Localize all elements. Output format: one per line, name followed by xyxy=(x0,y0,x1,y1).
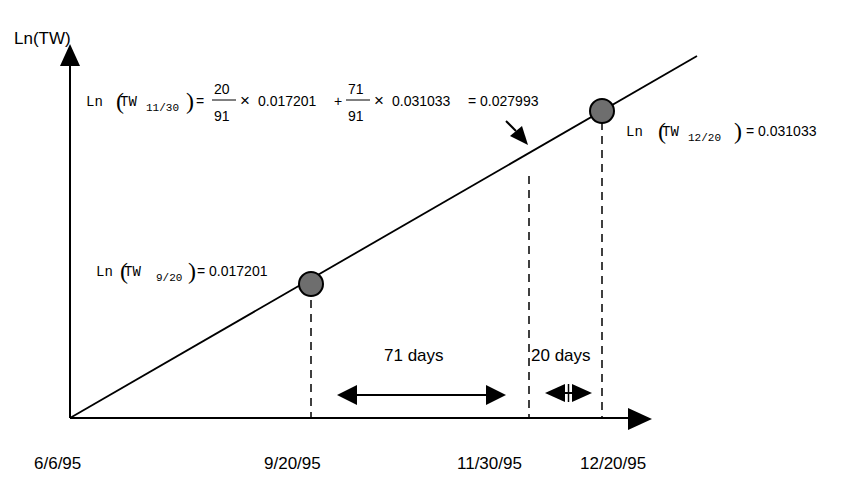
formula-times1: × xyxy=(240,91,250,110)
formula-close-paren: ) xyxy=(186,88,194,114)
frac2-numerator: 71 xyxy=(348,81,364,97)
interpolation-formula: Ln ( TW 11/30 ) = 20 91 × 0.017201 + 71 … xyxy=(86,81,539,124)
label-920-close-paren: ) xyxy=(188,258,196,284)
x-tick-label-1130: 11/30/95 xyxy=(457,454,522,473)
label-point-1220: Ln ( TW 12/20 ) = 0.031033 xyxy=(626,118,817,144)
x-tick-label-0920: 9/20/95 xyxy=(264,454,321,473)
point-920 xyxy=(299,272,323,296)
label-1220-close-paren: ) xyxy=(734,118,742,144)
x-tick-label-1220: 12/20/95 xyxy=(580,454,646,473)
formula-sub: 11/30 xyxy=(146,102,179,114)
label-920-prefix: Ln xyxy=(96,264,113,280)
formula-val1: 0.017201 xyxy=(258,93,317,109)
interval-20-left-arrow-icon xyxy=(545,384,565,402)
interpolation-diagram: Ln(TW) 6/6/95 9/20/95 11/30/95 12/20/95 … xyxy=(0,0,863,497)
frac1-numerator: 20 xyxy=(214,81,230,97)
formula-times2: × xyxy=(374,91,384,110)
formula-val2: 0.031033 xyxy=(392,93,451,109)
interval-20-label: 20 days xyxy=(531,346,591,365)
formula-result: = 0.027993 xyxy=(468,93,539,109)
label-point-920: Ln ( TW 9/20 ) = 0.017201 xyxy=(96,258,268,284)
formula-eq: = xyxy=(196,93,204,109)
x-tick-label-0606: 6/6/95 xyxy=(34,454,81,473)
label-1220-sub: 12/20 xyxy=(688,132,721,144)
formula-prefix: Ln xyxy=(86,94,103,110)
pointer-arrow-shaft xyxy=(506,121,516,131)
frac1-denominator: 91 xyxy=(214,108,230,124)
label-920-value: = 0.017201 xyxy=(197,263,268,279)
formula-plus: + xyxy=(334,93,342,109)
interval-71-left-arrow-icon xyxy=(337,385,357,405)
point-1220 xyxy=(590,99,614,123)
interval-71-label: 71 days xyxy=(384,346,444,365)
y-axis-label: Ln(TW) xyxy=(14,29,71,48)
x-axis-arrow-icon xyxy=(628,408,652,430)
label-920-var: TW xyxy=(124,264,141,280)
interval-20-right-arrow-icon xyxy=(572,384,592,402)
label-1220-var: TW xyxy=(662,124,679,140)
label-1220-value: = 0.031033 xyxy=(746,123,817,139)
label-920-sub: 9/20 xyxy=(156,272,182,284)
interval-71-right-arrow-icon xyxy=(486,385,506,405)
label-1220-prefix: Ln xyxy=(626,124,643,140)
frac2-denominator: 91 xyxy=(348,108,364,124)
formula-var: TW xyxy=(120,94,137,110)
